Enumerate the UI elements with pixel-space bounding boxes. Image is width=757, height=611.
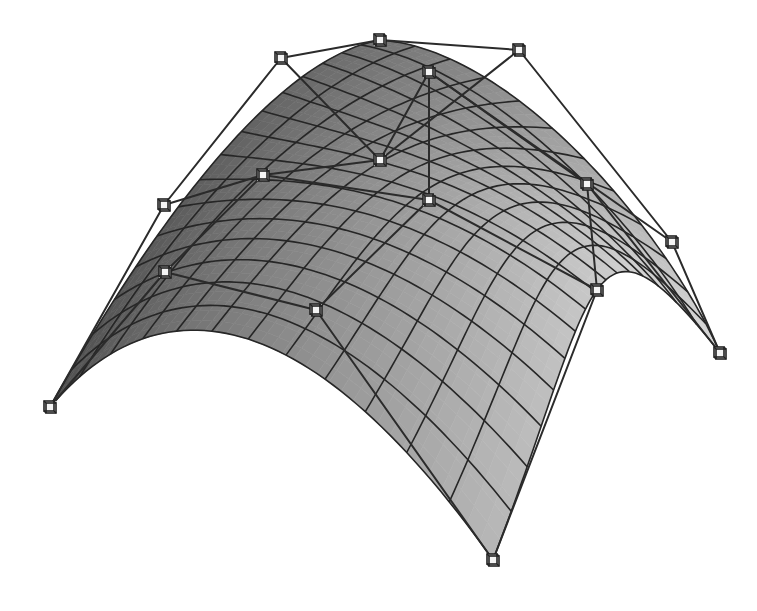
bezier-surface-figure xyxy=(0,0,757,611)
control-point-cube-icon[interactable] xyxy=(257,169,269,181)
control-net-edge xyxy=(50,272,165,407)
control-point-cube-icon[interactable] xyxy=(513,44,525,56)
control-point-cube-icon[interactable] xyxy=(423,66,435,78)
control-point-cube-icon[interactable] xyxy=(310,304,322,316)
control-point-cube-icon[interactable] xyxy=(374,154,386,166)
control-point-cube-icon[interactable] xyxy=(275,52,287,64)
control-point-cube-icon[interactable] xyxy=(158,199,170,211)
control-point-cube-icon[interactable] xyxy=(487,554,499,566)
control-point-cube-icon[interactable] xyxy=(44,401,56,413)
control-point-cube-icon[interactable] xyxy=(581,178,593,190)
control-point-cube-icon[interactable] xyxy=(591,284,603,296)
control-point-cube-icon[interactable] xyxy=(714,347,726,359)
control-point-cube-icon[interactable] xyxy=(423,194,435,206)
control-point-cube-icon[interactable] xyxy=(159,266,171,278)
control-point-cube-icon[interactable] xyxy=(666,236,678,248)
bezier-surface-patch xyxy=(50,40,720,560)
control-point-cube-icon[interactable] xyxy=(374,34,386,46)
